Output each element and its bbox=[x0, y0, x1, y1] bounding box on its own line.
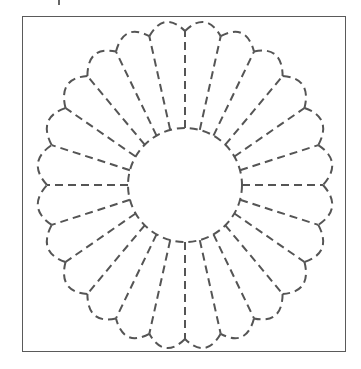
petal-spoke bbox=[225, 225, 282, 294]
petal-arc bbox=[185, 22, 221, 36]
center-circle bbox=[128, 128, 242, 242]
petal-arc bbox=[149, 334, 185, 348]
petal-spoke bbox=[149, 240, 170, 334]
petal-arc bbox=[254, 294, 283, 320]
petal-arc bbox=[254, 51, 283, 77]
petal-spoke bbox=[234, 214, 304, 263]
petal-spoke bbox=[52, 145, 130, 170]
petal-arc bbox=[305, 225, 324, 262]
petal-arc bbox=[64, 262, 87, 294]
petal-spoke bbox=[87, 225, 144, 294]
petal-arc bbox=[47, 225, 66, 262]
petal-spoke bbox=[116, 52, 157, 136]
petal-spoke bbox=[66, 214, 136, 263]
petal-spoke bbox=[214, 52, 255, 136]
petal-arc bbox=[64, 76, 87, 108]
petal-arc bbox=[87, 51, 116, 77]
petal-arc bbox=[283, 262, 306, 294]
petal-arc bbox=[221, 318, 254, 338]
petal-arc bbox=[116, 318, 149, 338]
petal-arc bbox=[185, 334, 221, 348]
petal-spoke bbox=[116, 234, 157, 318]
petal-arc bbox=[47, 108, 66, 145]
petal-arc bbox=[283, 76, 306, 108]
petal-arc bbox=[318, 185, 332, 225]
petal-spoke bbox=[225, 76, 282, 145]
petal-spoke bbox=[149, 36, 170, 130]
petal-spoke bbox=[200, 36, 221, 130]
petal-arc bbox=[221, 32, 254, 52]
petal-arc bbox=[38, 145, 52, 185]
petal-arc bbox=[116, 32, 149, 52]
petal-spoke bbox=[87, 76, 144, 145]
petal-arc bbox=[87, 294, 116, 320]
petal-spoke bbox=[200, 240, 221, 334]
petal-arc bbox=[149, 22, 185, 36]
petal-spokes bbox=[47, 31, 323, 339]
dresden-plate-pattern bbox=[0, 0, 361, 369]
petal-spoke bbox=[240, 200, 318, 225]
petal-spoke bbox=[66, 108, 136, 157]
petal-spoke bbox=[214, 234, 255, 318]
petal-spoke bbox=[52, 200, 130, 225]
petal-arc bbox=[38, 185, 52, 225]
petal-spoke bbox=[240, 145, 318, 170]
petal-arc bbox=[305, 108, 324, 145]
petal-arc bbox=[318, 145, 332, 185]
petal-spoke bbox=[234, 108, 304, 157]
